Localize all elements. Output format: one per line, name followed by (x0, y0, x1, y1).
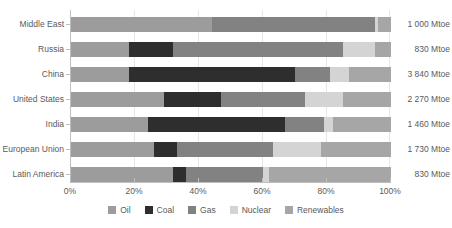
bar-segment-renewables (333, 117, 391, 132)
category-label: Latin America (0, 162, 64, 187)
bar-segment-coal (154, 142, 176, 157)
bar-segment-coal (129, 42, 174, 57)
bar-segment-oil (71, 117, 148, 132)
bar-segment-oil (71, 167, 173, 182)
y-axis-tick (66, 174, 71, 175)
category-label: Middle East (0, 12, 64, 37)
bar-segment-gas (177, 142, 273, 157)
y-axis-tick (66, 74, 71, 75)
bar-value-label: 3 840 Mtoe (393, 62, 450, 87)
bar-segment-gas (221, 92, 304, 107)
bar-value-label: 1 730 Mtoe (393, 137, 450, 162)
bar-segment-nuclear (273, 142, 321, 157)
bar-segment-renewables (343, 92, 391, 107)
x-axis-tick (134, 178, 135, 183)
bar-segment-nuclear (324, 117, 334, 132)
bar-segment-nuclear (330, 67, 349, 82)
category-label: China (0, 62, 64, 87)
bar-segment-renewables (349, 67, 391, 82)
bar-segment-coal (164, 92, 222, 107)
bar-segment-coal (129, 67, 295, 82)
bar-segment-oil (71, 142, 154, 157)
x-axis-line (70, 182, 391, 183)
x-axis-tick (262, 178, 263, 183)
x-axis-tick (198, 178, 199, 183)
bar-segment-nuclear (305, 92, 343, 107)
legend-item-renewables[interactable]: Renewables (285, 205, 344, 215)
x-axis-tick-label: 40% (178, 186, 218, 196)
bar-segment-coal (173, 167, 186, 182)
y-axis-tick (66, 124, 71, 125)
legend-item-gas[interactable]: Gas (188, 205, 216, 215)
legend-swatch-icon (230, 206, 238, 214)
y-axis-line (70, 10, 71, 183)
chart-legend: OilCoalGasNuclearRenewables (0, 200, 452, 220)
stacked-bar (71, 92, 391, 107)
legend-label: Coal (157, 205, 174, 215)
y-axis-tick (66, 24, 71, 25)
stacked-bar (71, 17, 391, 32)
legend-label: Renewables (297, 205, 344, 215)
stacked-bar (71, 42, 391, 57)
stacked-bar-chart: Middle East1 000 MtoeRussia830 MtoeChina… (0, 0, 452, 228)
bar-segment-nuclear (343, 42, 375, 57)
bar-segment-gas (285, 117, 323, 132)
bar-value-label: 1 000 Mtoe (393, 12, 450, 37)
bar-segment-renewables (375, 42, 391, 57)
bar-segment-oil (71, 17, 212, 32)
bar-segment-gas (212, 17, 375, 32)
stacked-bar (71, 117, 391, 132)
legend-swatch-icon (108, 206, 116, 214)
bar-value-label: 830 Mtoe (393, 162, 450, 187)
legend-swatch-icon (145, 206, 153, 214)
legend-label: Gas (200, 205, 216, 215)
bar-segment-renewables (321, 142, 391, 157)
category-label: India (0, 112, 64, 137)
legend-swatch-icon (285, 206, 293, 214)
legend-swatch-icon (188, 206, 196, 214)
legend-item-oil[interactable]: Oil (108, 205, 130, 215)
bar-segment-gas (173, 42, 343, 57)
bar-segment-coal (148, 117, 286, 132)
stacked-bar (71, 167, 391, 182)
legend-item-nuclear[interactable]: Nuclear (230, 205, 271, 215)
x-axis-tick-label: 100% (370, 186, 410, 196)
bar-segment-oil (71, 42, 129, 57)
bar-segment-renewables (378, 17, 391, 32)
bar-segment-oil (71, 67, 129, 82)
category-label: United States (0, 87, 64, 112)
x-axis-tick-label: 60% (242, 186, 282, 196)
y-axis-tick (66, 49, 71, 50)
x-axis-tick (326, 178, 327, 183)
y-axis-tick (66, 149, 71, 150)
y-axis-tick (66, 99, 71, 100)
x-axis-tick-label: 20% (114, 186, 154, 196)
category-label: Russia (0, 37, 64, 62)
bar-segment-oil (71, 92, 164, 107)
bar-value-label: 830 Mtoe (393, 37, 450, 62)
bar-value-label: 2 270 Mtoe (393, 87, 450, 112)
stacked-bar (71, 67, 391, 82)
x-axis-tick (70, 178, 71, 183)
x-axis-tick-label: 80% (306, 186, 346, 196)
bar-segment-renewables (269, 167, 391, 182)
legend-label: Oil (120, 205, 130, 215)
bar-value-label: 1 460 Mtoe (393, 112, 450, 137)
stacked-bar (71, 142, 391, 157)
legend-label: Nuclear (242, 205, 271, 215)
category-label: European Union (0, 137, 64, 162)
legend-item-coal[interactable]: Coal (145, 205, 174, 215)
x-axis-tick-label: 0% (50, 186, 90, 196)
bar-segment-gas (295, 67, 330, 82)
x-axis-tick (390, 178, 391, 183)
